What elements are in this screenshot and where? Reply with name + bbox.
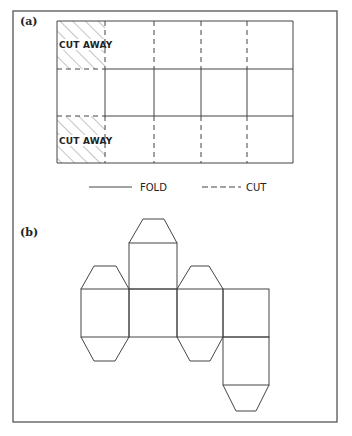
net-face-right-bottom	[223, 337, 269, 385]
net-face-4	[223, 289, 269, 337]
net-face-3	[177, 289, 223, 337]
legend: FOLD CUT	[89, 182, 267, 193]
net-cap-left-top	[81, 266, 129, 289]
net-cap-right-bottom	[177, 337, 223, 361]
prism-net	[81, 219, 269, 411]
figure-frame	[13, 11, 337, 422]
panel-a-label: (a)	[20, 15, 38, 28]
panel-b: (b)	[20, 219, 269, 411]
net-cap-center	[129, 219, 177, 243]
legend-cut-label: CUT	[246, 182, 267, 193]
net-cap-right-lowest	[223, 385, 269, 411]
net-face-center-top	[129, 243, 177, 289]
net-cap-right-top	[177, 266, 223, 289]
legend-fold-label: FOLD	[140, 182, 167, 193]
diagram-canvas: (a) CUT AWAY CUT AWAY	[0, 0, 352, 436]
panel-a: (a) CUT AWAY CUT AWAY	[20, 15, 293, 163]
net-face-2	[129, 289, 177, 337]
net-face-1	[81, 289, 129, 337]
panel-b-label: (b)	[20, 226, 38, 239]
net-cap-left-bottom	[81, 337, 129, 361]
